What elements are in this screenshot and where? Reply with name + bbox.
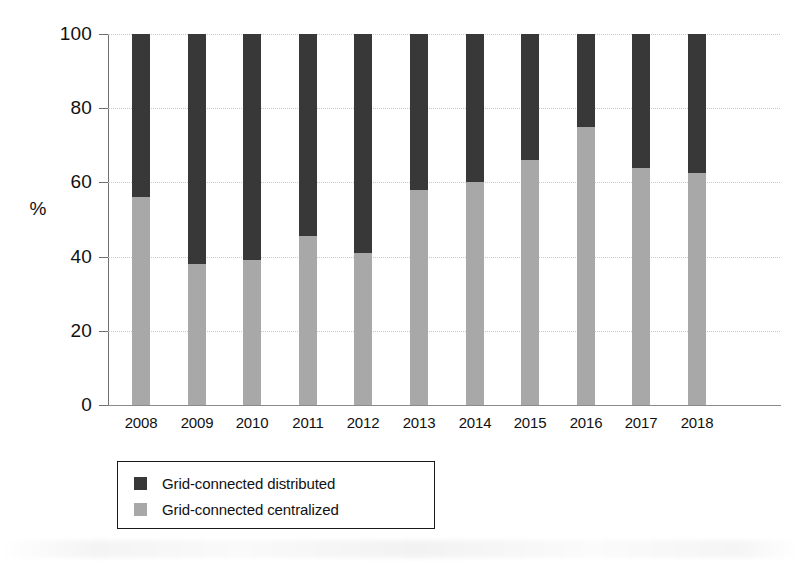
- chart-legend: Grid-connected distributedGrid-connected…: [117, 461, 435, 529]
- bar-segment-centralized: [410, 190, 428, 405]
- y-tick-label: 80: [40, 97, 92, 117]
- gridline: [108, 331, 780, 332]
- bar-segment-centralized: [188, 264, 206, 405]
- y-tick-label: 100: [40, 23, 92, 43]
- legend-label: Grid-connected centralized: [162, 501, 339, 518]
- y-tick-label-text: 80: [46, 97, 92, 119]
- bar-2009: [188, 34, 206, 405]
- bar-segment-distributed: [410, 34, 428, 190]
- x-tick-label-2015: 2015: [500, 414, 560, 431]
- x-tick-label-2018: 2018: [667, 414, 727, 431]
- bar-2016: [577, 34, 595, 405]
- y-tick-label: 20: [40, 320, 92, 340]
- bar-2014: [466, 34, 484, 405]
- bar-segment-centralized: [243, 260, 261, 405]
- y-tick-label-text: 20: [46, 320, 92, 342]
- bar-segment-distributed: [632, 34, 650, 168]
- y-tick-mark: [99, 34, 108, 35]
- legend-item-centralized[interactable]: Grid-connected centralized: [134, 497, 434, 522]
- x-tick-label-2008: 2008: [111, 414, 171, 431]
- x-tick-label-2012: 2012: [333, 414, 393, 431]
- bar-segment-centralized: [577, 127, 595, 405]
- gridline: [108, 257, 780, 258]
- y-tick-mark: [99, 405, 108, 406]
- bar-2010: [243, 34, 261, 405]
- y-tick-mark: [99, 108, 108, 109]
- stacked-bar-chart: % 100806040200 2008200920102011201220132…: [0, 0, 800, 564]
- y-tick-mark: [99, 182, 108, 183]
- bar-segment-centralized: [632, 168, 650, 405]
- bar-2015: [521, 34, 539, 405]
- bar-segment-centralized: [521, 160, 539, 405]
- x-axis-line: [108, 405, 781, 406]
- bar-segment-distributed: [132, 34, 150, 197]
- bar-segment-distributed: [188, 34, 206, 264]
- bar-segment-distributed: [466, 34, 484, 182]
- y-axis-title: %: [18, 198, 58, 220]
- x-tick-label-2011: 2011: [278, 414, 338, 431]
- legend-swatch-icon: [134, 477, 147, 490]
- y-tick-label: 60: [40, 171, 92, 191]
- legend-swatch-icon: [134, 503, 147, 516]
- bar-2013: [410, 34, 428, 405]
- y-tick-mark: [99, 257, 108, 258]
- bar-segment-distributed: [521, 34, 539, 160]
- bar-2012: [354, 34, 372, 405]
- x-tick-label-2017: 2017: [611, 414, 671, 431]
- bar-segment-distributed: [354, 34, 372, 253]
- y-tick-mark: [99, 331, 108, 332]
- scan-artifact: [0, 540, 800, 558]
- legend-item-distributed[interactable]: Grid-connected distributed: [134, 471, 434, 496]
- gridline: [108, 108, 780, 109]
- bar-segment-distributed: [243, 34, 261, 260]
- plot-area: [108, 34, 780, 405]
- bar-2008: [132, 34, 150, 405]
- y-tick-label-text: 60: [46, 171, 92, 193]
- gridline: [108, 182, 780, 183]
- y-tick-label-text: 100: [46, 23, 92, 45]
- bar-segment-centralized: [688, 173, 706, 405]
- x-tick-label-2009: 2009: [167, 414, 227, 431]
- bar-segment-distributed: [688, 34, 706, 173]
- bar-segment-centralized: [466, 182, 484, 405]
- y-tick-label: 40: [40, 246, 92, 266]
- legend-label: Grid-connected distributed: [162, 475, 335, 492]
- y-tick-label-text: 0: [46, 394, 92, 416]
- bar-2018: [688, 34, 706, 405]
- gridline: [108, 34, 780, 35]
- x-tick-label-2010: 2010: [222, 414, 282, 431]
- bar-segment-centralized: [299, 236, 317, 405]
- bar-segment-centralized: [132, 197, 150, 405]
- x-tick-label-2016: 2016: [556, 414, 616, 431]
- x-tick-label-2013: 2013: [389, 414, 449, 431]
- bar-segment-distributed: [577, 34, 595, 127]
- bar-segment-centralized: [354, 253, 372, 405]
- y-tick-label-text: 40: [46, 246, 92, 268]
- bar-segment-distributed: [299, 34, 317, 236]
- bar-2011: [299, 34, 317, 405]
- x-tick-label-2014: 2014: [445, 414, 505, 431]
- bar-2017: [632, 34, 650, 405]
- y-tick-label: 0: [40, 394, 92, 414]
